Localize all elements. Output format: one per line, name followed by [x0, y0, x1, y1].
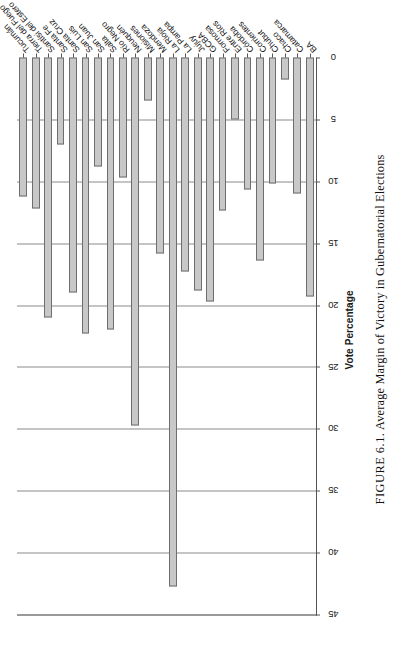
category-tick: [172, 53, 173, 57]
y-axis-tick-label: 15: [328, 237, 338, 248]
y-axis-tick: [316, 57, 320, 58]
category-label: Tierra del Fuego: [0, 3, 44, 55]
y-axis-tick: [316, 428, 320, 429]
category-label: GCBA: [195, 30, 218, 54]
bar: [305, 57, 313, 296]
bar: [119, 57, 127, 177]
bar-slot: [69, 57, 77, 614]
y-axis-tick-label: 30: [328, 423, 338, 434]
y-axis-tick-label: 25: [328, 361, 338, 372]
bar: [31, 57, 39, 208]
category-label: Tucumán: [1, 22, 31, 54]
category-label: Misiones: [127, 23, 156, 54]
category-tick: [185, 53, 186, 57]
y-axis-tick: [316, 490, 320, 491]
bar: [231, 57, 239, 119]
category-tick: [97, 53, 98, 57]
category-tick: [23, 53, 24, 57]
bar: [69, 57, 77, 292]
bar-slot: [168, 57, 176, 614]
category-label: Jujuy: [186, 33, 206, 54]
bar-slot: [193, 57, 201, 614]
category-label: Entre Ríos: [210, 19, 244, 55]
y-axis-tick: [316, 119, 320, 120]
figure-caption-body: Average Margin of Victory in Gubernatori…: [374, 155, 388, 430]
category-tick: [259, 53, 260, 57]
y-axis-tick-label: 40: [328, 547, 338, 558]
chart-area: 051015202530354045 BACatamarcaChacoChubu…: [3, 0, 363, 659]
category-tick: [197, 53, 198, 57]
category-label: Mendoza: [138, 22, 168, 54]
y-axis-tick-label: 0: [330, 52, 335, 63]
bar-slot: [280, 57, 288, 614]
category-tick: [147, 53, 148, 57]
category-tick: [122, 53, 123, 57]
category-label: Santa Cruz: [46, 17, 81, 55]
bar-slot: [218, 57, 226, 614]
category-label: San Juan: [75, 22, 106, 55]
bar: [156, 57, 164, 253]
y-axis-tick: [316, 614, 320, 615]
figure-caption-text: FIGURE 6.1. Average Margin of Victory in…: [374, 155, 389, 505]
category-tick: [35, 53, 36, 57]
y-axis-tick: [316, 181, 320, 182]
y-axis-tick-label: 35: [328, 485, 338, 496]
bar: [268, 57, 276, 183]
category-label: BA: [303, 39, 318, 54]
bar-slot: [143, 57, 151, 614]
category-tick: [110, 53, 111, 57]
y-axis-tick-label: 10: [328, 175, 338, 186]
category-label: Santísi del Estero: [6, 0, 57, 54]
category-tick: [247, 53, 248, 57]
y-axis-tick-label: 45: [328, 609, 338, 620]
bar: [19, 57, 27, 196]
category-tick: [73, 53, 74, 57]
bar-slot: [119, 57, 127, 614]
bar-slot: [31, 57, 39, 614]
category-tick: [210, 53, 211, 57]
bar: [293, 57, 301, 193]
bar-slot: [206, 57, 214, 614]
y-axis-tick: [316, 243, 320, 244]
category-tick: [272, 53, 273, 57]
rotated-chart-wrapper: 051015202530354045 BACatamarcaChacoChubu…: [3, 0, 363, 659]
category-label: La Pampa: [161, 19, 194, 54]
category-label: Córdoba: [227, 24, 256, 54]
bar-slot: [131, 57, 139, 614]
bar: [56, 57, 64, 144]
bar-slot: [256, 57, 264, 614]
bar-slot: [268, 57, 276, 614]
category-tick: [222, 53, 223, 57]
category-label: Catamarca: [271, 17, 306, 54]
category-label: San Luis: [65, 24, 94, 55]
category-label: Chubut: [255, 28, 280, 55]
bars-layer: [17, 57, 316, 614]
bar: [131, 57, 139, 425]
category-label: Río Negro: [98, 20, 131, 55]
category-label: Santa Fe: [39, 23, 69, 55]
bar: [106, 57, 114, 329]
category-tick: [297, 53, 298, 57]
bar: [280, 57, 288, 79]
bar: [143, 57, 151, 100]
y-axis-tick-label: 5: [330, 113, 335, 124]
category-tick: [60, 53, 61, 57]
category-label: Formosa: [201, 23, 230, 54]
plot-region: 051015202530354045: [17, 57, 317, 615]
bar: [256, 57, 264, 260]
category-tick: [85, 53, 86, 57]
bar-slot: [94, 57, 102, 614]
y-axis-tick: [316, 305, 320, 306]
category-tick: [135, 53, 136, 57]
category-tick: [235, 53, 236, 57]
bar-slot: [181, 57, 189, 614]
figure-caption-prefix: FIGURE 6.1.: [374, 433, 388, 505]
bar-slot: [231, 57, 239, 614]
category-label: Neuquén: [113, 23, 143, 55]
bar: [206, 57, 214, 301]
bar: [218, 57, 226, 210]
category-tick: [284, 53, 285, 57]
bar: [243, 57, 251, 189]
bar: [81, 57, 89, 333]
bar-slot: [106, 57, 114, 614]
